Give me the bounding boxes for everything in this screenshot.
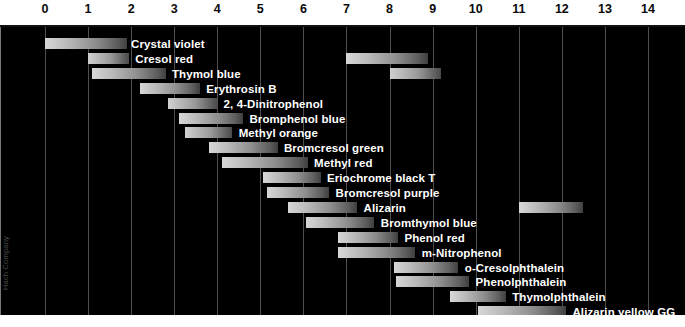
axis-tick-label-0: 0 (42, 2, 49, 16)
gridline-14 (648, 27, 649, 315)
bar-alizarin-range2 (519, 202, 584, 213)
bar-label-bromcresol-green: Bromcresol green (284, 143, 384, 154)
bar-eriochrome-black-t (263, 172, 321, 183)
bar-cresol-red (88, 53, 129, 64)
ph-indicator-chart: 01234567891011121314 Crystal violetCreso… (0, 0, 685, 327)
axis-tick-label-11: 11 (512, 2, 525, 16)
bar-crystal-violet (45, 38, 127, 49)
gridline-6 (303, 27, 304, 315)
bar-label-alizarin: Alizarin (364, 203, 406, 214)
bar-label-o-cresolphthalein: o-Cresolphthalein (465, 263, 564, 274)
bar-label-bromcresol-purple: Bromcresol purple (336, 188, 440, 199)
axis-tick-label-6: 6 (300, 2, 307, 16)
bar-label-bromthymol-blue: Bromthymol blue (381, 218, 477, 229)
bar-bromcresol-green (209, 142, 278, 153)
axis-tick-label-3: 3 (171, 2, 178, 16)
bottom-margin-strip (0, 315, 685, 327)
bar-label-2-4-dinitrophenol: 2, 4-Dinitrophenol (224, 99, 324, 110)
bar-alizarin (288, 202, 357, 213)
bar-phenol-red (338, 232, 398, 243)
axis-tick-label-2: 2 (128, 2, 135, 16)
bar-2-4-dinitrophenol (168, 98, 218, 109)
bar-label-bromphenol-blue: Bromphenol blue (249, 114, 345, 125)
bar-label-m-nitrophenol: m-Nitrophenol (422, 248, 502, 259)
bar-bromphenol-blue (179, 113, 244, 124)
source-credit: Hach Company (1, 236, 15, 290)
bar-label-methyl-orange: Methyl orange (239, 128, 318, 139)
bar-label-cresol-red: Cresol red (135, 54, 193, 65)
axis-tick-label-7: 7 (343, 2, 350, 16)
bar-label-erythrosin-b: Erythrosin B (206, 84, 276, 95)
plot-area: Crystal violetCresol redThymol blueEryth… (0, 27, 685, 315)
ph-axis-band: 01234567891011121314 (0, 0, 685, 27)
axis-tick-label-14: 14 (641, 2, 655, 16)
bar-methyl-orange (185, 127, 232, 138)
gridline-0 (45, 27, 46, 315)
bar-phenolphthalein (396, 276, 469, 287)
axis-tick-label-5: 5 (257, 2, 264, 16)
bar-thymol-blue (92, 68, 165, 79)
bar-bromthymol-blue (306, 217, 375, 228)
bar-label-eriochrome-black-t: Eriochrome black T (327, 173, 436, 184)
bar-erythrosin-b (140, 83, 200, 94)
bar-label-crystal-violet: Crystal violet (131, 39, 205, 50)
gridline-1 (88, 27, 89, 315)
axis-tick-label-4: 4 (214, 2, 221, 16)
bar-label-thymolphthalein: Thymolphthalein (512, 292, 606, 303)
bar-m-nitrophenol (338, 247, 416, 258)
bar-label-phenol-red: Phenol red (404, 233, 464, 244)
bar-thymolphthalein (450, 291, 506, 302)
bar-o-cresolphthalein (394, 262, 459, 273)
bar-label-phenolphthalein: Phenolphthalein (476, 277, 567, 288)
gridline-13 (605, 27, 606, 315)
bar-methyl-red (222, 157, 308, 168)
bar-label-thymol-blue: Thymol blue (172, 69, 241, 80)
gridline-5 (260, 27, 261, 315)
bar-thymol-blue-range2 (390, 68, 442, 79)
bar-cresol-red-range2 (346, 53, 428, 64)
axis-tick-label-1: 1 (85, 2, 92, 16)
bar-bromcresol-purple (267, 187, 329, 198)
bar-label-methyl-red: Methyl red (314, 158, 373, 169)
axis-tick-label-8: 8 (386, 2, 393, 16)
axis-tick-label-13: 13 (598, 2, 612, 16)
axis-tick-label-9: 9 (429, 2, 436, 16)
gridline-7 (346, 27, 347, 315)
axis-tick-label-10: 10 (469, 2, 483, 16)
axis-tick-label-12: 12 (555, 2, 569, 16)
